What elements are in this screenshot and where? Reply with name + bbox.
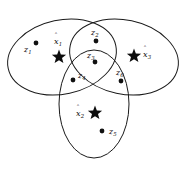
bottom-cluster-region [59,50,129,158]
data-point-label-z3: z3 [87,52,95,60]
data-point-z2 [94,39,99,44]
cluster-center-label-x2: ˆx2 [76,110,84,118]
data-point-label-z2: z2 [91,29,99,37]
cluster-center-markers [52,49,141,120]
hat-accent-glyph: ˆx [76,110,81,118]
hat-accent-glyph: ˆx [143,51,148,59]
data-point-z4 [71,78,76,83]
cluster-center-label-x1: ˆx1 [54,38,62,46]
data-point-label-z4: z4 [78,72,86,80]
data-point-z6 [119,79,124,84]
hat-accent-glyph: ˆx [54,38,59,46]
cluster-center-star-x1 [52,50,66,64]
cluster-center-star-x3 [127,49,141,63]
cluster-center-star-x2 [88,106,102,120]
data-point-label-z6: z6 [116,69,124,77]
cluster-center-label-x3: ˆx3 [143,51,151,59]
cluster-venn-diagram: z1z2z3z4z5z6ˆx1ˆx2ˆx3 [0,0,185,173]
data-point-label-z5: z5 [109,128,117,136]
data-point-z1 [34,41,39,46]
data-point-z5 [100,129,105,134]
data-point-markers [34,39,124,134]
venn-diagram-canvas [0,0,185,173]
data-point-label-z1: z1 [24,46,32,54]
